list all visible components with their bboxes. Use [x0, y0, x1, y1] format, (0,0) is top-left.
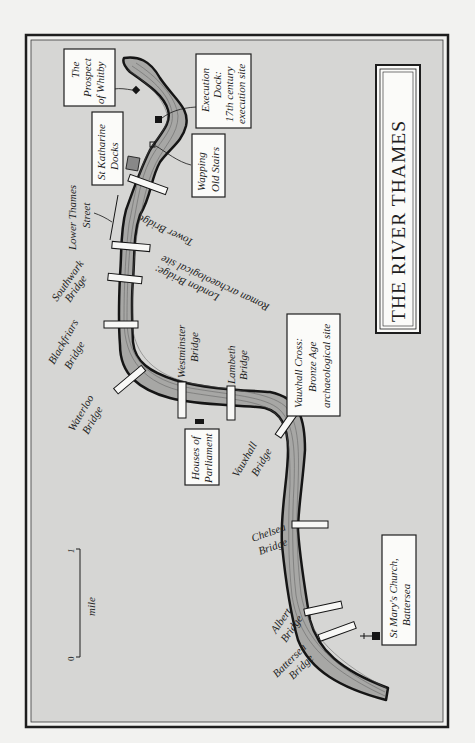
blackfriars-bridge-marker: [104, 321, 138, 328]
svg-text:Docks: Docks: [108, 143, 120, 172]
svg-text:St Mary's Church,: St Mary's Church,: [387, 558, 399, 638]
westminster-bridge-marker: [178, 382, 186, 418]
svg-text:17th century: 17th century: [223, 67, 235, 122]
svg-text:Westminster: Westminster: [175, 324, 187, 378]
landmark-wapping-old-stairs: Wapping Old Stairs: [192, 134, 225, 197]
scale-start-label: 0: [66, 656, 76, 661]
svg-text:Execution: Execution: [199, 68, 211, 113]
svg-text:Old Stairs: Old Stairs: [209, 147, 221, 192]
landmark-st-marys-church: St Mary's Church, Battersea: [382, 535, 416, 645]
svg-text:Bridge: Bridge: [188, 332, 200, 362]
landmark-st-katharine-docks: St Katharine Docks: [92, 112, 123, 185]
landmark-vauxhall-cross: Vauxhall Cross: Bronze Age archaeologica…: [287, 314, 340, 416]
svg-text:execution site: execution site: [235, 64, 247, 124]
svg-text:Street: Street: [80, 202, 92, 228]
landmark-prospect-of-whitby: The Prospect of Whitby: [64, 49, 115, 106]
svg-text:Prospect: Prospect: [81, 57, 93, 98]
svg-text:of Whitby: of Whitby: [94, 61, 106, 104]
scale-end-label: 1: [66, 549, 76, 554]
landmark-houses-of-parliament: Houses of Parliament: [185, 429, 219, 485]
river-thames-map: THE RIVER THAMES The Prospect of Whitby …: [0, 0, 475, 743]
svg-text:Dock:: Dock:: [211, 71, 223, 99]
landmark-execution-dock: Execution Dock: 17th century execution s…: [196, 54, 251, 128]
svg-text:Lambeth: Lambeth: [225, 345, 237, 385]
svg-text:Battersea: Battersea: [400, 583, 412, 626]
svg-text:Vauxhall Cross:: Vauxhall Cross:: [292, 338, 304, 408]
svg-text:Bronze Age: Bronze Age: [306, 341, 318, 392]
houses-of-parliament-marker: [195, 419, 204, 424]
svg-text:St Katharine: St Katharine: [95, 124, 107, 180]
scale-unit-label: mile: [85, 597, 97, 616]
svg-text:archaeological site: archaeological site: [320, 324, 332, 408]
map-title: THE RIVER THAMES: [388, 120, 409, 322]
svg-text:Parliament: Parliament: [202, 433, 214, 484]
svg-text:Houses of: Houses of: [189, 434, 201, 481]
st-katharine-docks-marker: [126, 156, 140, 171]
chelsea-bridge-marker: [292, 521, 328, 528]
svg-text:Lower Thames: Lower Thames: [66, 185, 78, 251]
svg-text:Wapping: Wapping: [195, 152, 207, 191]
svg-text:The: The: [69, 61, 81, 78]
execution-dock-marker: [155, 116, 162, 123]
svg-text:Bridge: Bridge: [237, 350, 249, 380]
title-box: THE RIVER THAMES: [376, 65, 420, 333]
lambeth-bridge-marker: [227, 386, 235, 420]
bridge-label-lambeth: Lambeth Bridge: [225, 345, 249, 385]
